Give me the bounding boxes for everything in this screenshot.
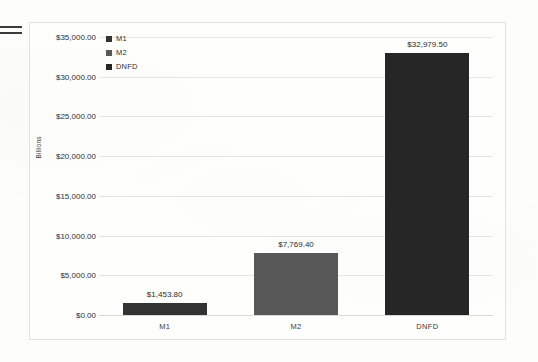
y-axis-tick-label: $25,000.00 bbox=[22, 112, 96, 121]
chart-legend: M1M2DNFD bbox=[106, 34, 138, 71]
legend-swatch-icon bbox=[106, 50, 112, 56]
y-axis-tick-label: $30,000.00 bbox=[22, 72, 96, 81]
y-axis-tick-label: $20,000.00 bbox=[22, 152, 96, 161]
legend-label: DNFD bbox=[116, 62, 138, 71]
legend-item-m2[interactable]: M2 bbox=[106, 48, 138, 57]
bar-value-label-m2: $7,769.40 bbox=[278, 240, 314, 249]
scanned-page-background: Billions $0.00$5,000.00$10,000.00$15,000… bbox=[0, 0, 538, 362]
gridline bbox=[99, 37, 493, 38]
y-axis-tick-labels: $0.00$5,000.00$10,000.00$15,000.00$20,00… bbox=[18, 37, 96, 315]
bar-m1[interactable] bbox=[123, 303, 207, 315]
y-axis-tick-label: $5,000.00 bbox=[22, 271, 96, 280]
bar-value-label-m1: $1,453.80 bbox=[147, 290, 183, 299]
bar-value-label-dnfd: $32,979.50 bbox=[407, 40, 447, 49]
legend-label: M2 bbox=[116, 48, 127, 57]
y-axis-tick-label: $0.00 bbox=[22, 311, 96, 320]
legend-item-m1[interactable]: M1 bbox=[106, 34, 138, 43]
bar-dnfd[interactable] bbox=[385, 53, 469, 315]
legend-swatch-icon bbox=[106, 64, 112, 70]
y-axis-tick-label: $10,000.00 bbox=[22, 231, 96, 240]
x-axis-category-label-dnfd: DNFD bbox=[416, 322, 438, 331]
legend-swatch-icon bbox=[106, 36, 112, 42]
x-axis-category-label-m2: M2 bbox=[290, 322, 301, 331]
gridline bbox=[99, 315, 493, 316]
page-edge-artifact-icon bbox=[0, 26, 22, 36]
x-axis-category-label-m1: M1 bbox=[159, 322, 170, 331]
plot-area: $1,453.80M1$7,769.40M2$32,979.50DNFD bbox=[99, 37, 493, 315]
y-axis-tick-label: $15,000.00 bbox=[22, 191, 96, 200]
legend-label: M1 bbox=[116, 34, 127, 43]
y-axis-tick-label: $35,000.00 bbox=[22, 33, 96, 42]
bar-m2[interactable] bbox=[254, 253, 338, 315]
legend-item-dnfd[interactable]: DNFD bbox=[106, 62, 138, 71]
